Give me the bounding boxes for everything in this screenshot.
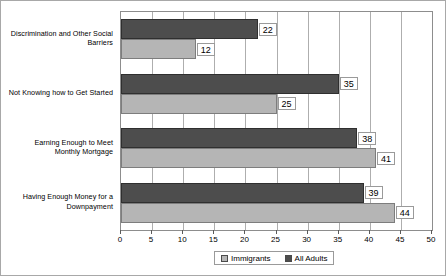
x-tick-mark [338, 230, 339, 234]
category-label-line: Discrimination and Other Social [1, 29, 113, 39]
x-tick-label: 5 [149, 235, 153, 244]
bar-value-label: 38 [358, 132, 376, 145]
x-tick-mark [120, 230, 121, 234]
bar [121, 148, 376, 168]
bar-value-label: 22 [259, 23, 277, 36]
legend-swatch-icon [285, 255, 292, 262]
legend-item[interactable]: All Adults [285, 254, 328, 263]
x-tick-label: 25 [271, 235, 280, 244]
bar-value-label: 12 [197, 43, 215, 56]
bar [121, 19, 258, 39]
x-tick-label: 20 [240, 235, 249, 244]
bar-value-label: 35 [340, 77, 358, 90]
x-tick-label: 40 [364, 235, 373, 244]
x-tick-mark [431, 230, 432, 234]
x-tick-mark [244, 230, 245, 234]
x-tick-label: 10 [178, 235, 187, 244]
x-tick-label: 50 [427, 235, 436, 244]
bar-value-label: 44 [396, 206, 414, 219]
bar-chart: Discrimination and Other SocialBarriersN… [0, 0, 446, 276]
x-tick-label: 15 [209, 235, 218, 244]
category-label: Discrimination and Other SocialBarriers [1, 29, 113, 48]
bar [121, 183, 364, 203]
x-tick-mark [369, 230, 370, 234]
category-label-line: Earning Enough to Meet [1, 138, 113, 148]
bar [121, 74, 339, 94]
x-tick-mark [307, 230, 308, 234]
x-tick-label: 35 [333, 235, 342, 244]
bar [121, 203, 395, 223]
x-tick-mark [276, 230, 277, 234]
legend-swatch-icon [221, 255, 228, 262]
x-tick-label: 0 [118, 235, 122, 244]
bar-value-label: 25 [278, 97, 296, 110]
category-label-line: Not Knowing how to Get Started [1, 88, 113, 98]
plot-area: 2212352538413944 [120, 11, 433, 231]
category-label-line: Monthly Mortgage [1, 147, 113, 157]
gridline [401, 12, 402, 230]
bar [121, 94, 277, 114]
bar [121, 39, 196, 59]
category-label: Not Knowing how to Get Started [1, 88, 113, 98]
legend-label: All Adults [295, 254, 328, 263]
bar-value-label: 41 [377, 152, 395, 165]
x-tick-mark [213, 230, 214, 234]
category-label-line: Barriers [1, 38, 113, 48]
x-axis: 05101520253035404550 [120, 230, 431, 248]
x-tick-mark [400, 230, 401, 234]
x-tick-label: 30 [302, 235, 311, 244]
legend-label: Immigrants [231, 254, 271, 263]
x-tick-mark [151, 230, 152, 234]
chart-legend: ImmigrantsAll Adults [214, 251, 334, 265]
x-tick-mark [182, 230, 183, 234]
legend-item[interactable]: Immigrants [221, 254, 271, 263]
category-label-line: Downpayment [1, 202, 113, 212]
category-label: Having Enough Money for aDownpayment [1, 192, 113, 211]
category-label-line: Having Enough Money for a [1, 192, 113, 202]
bar [121, 128, 357, 148]
x-tick-label: 45 [395, 235, 404, 244]
category-axis-labels: Discrimination and Other SocialBarriersN… [1, 11, 117, 229]
bar-value-label: 39 [365, 186, 383, 199]
category-label: Earning Enough to MeetMonthly Mortgage [1, 138, 113, 157]
